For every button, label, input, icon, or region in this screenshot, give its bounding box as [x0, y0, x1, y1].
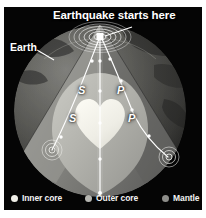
legend-swatch-inner-core [11, 195, 18, 202]
earth-cutaway-illustration [4, 7, 202, 210]
legend-label-mantle: Mantle [173, 193, 199, 203]
legend-item-outer-core: Outer core [85, 193, 138, 203]
legend-swatch-mantle [162, 195, 169, 202]
legend-swatch-outer-core [85, 195, 92, 202]
legend-label-outer-core: Outer core [96, 193, 138, 203]
legend-label-inner-core: Inner core [22, 193, 62, 203]
legend: Inner core Outer core Mantle [4, 190, 202, 206]
legend-item-mantle: Mantle [162, 193, 199, 203]
diagram-plate: Earthquake starts here Earth S S P P Inn… [4, 7, 202, 210]
legend-item-inner-core: Inner core [11, 193, 62, 203]
earthquake-wave-diagram: Earthquake starts here Earth S S P P Inn… [0, 0, 206, 218]
